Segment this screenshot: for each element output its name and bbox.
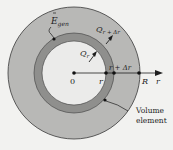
sphere-diagram: Egen Qr Qr + Δr 0 r r + Δr R r Volume el… [0, 0, 173, 150]
axis-arrow-icon [155, 70, 163, 76]
egen-dot [52, 37, 55, 40]
R-label: R [141, 77, 148, 86]
volume-label-line2: element [136, 116, 167, 125]
r-plus-dr-label: r + Δr [109, 64, 132, 72]
origin-dot [72, 71, 76, 75]
R-dot [137, 71, 141, 75]
r-dot [104, 71, 108, 75]
origin-label: 0 [70, 77, 75, 86]
volume-label-line1: Volume [135, 106, 165, 115]
axis-label: r [156, 77, 161, 86]
